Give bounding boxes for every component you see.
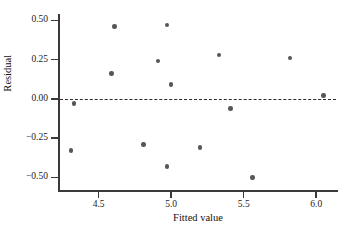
data-point [141, 142, 146, 147]
y-axis-tick-label: −0.25 [26, 133, 48, 143]
x-axis-tick [98, 192, 100, 198]
zero-reference-line [60, 99, 336, 100]
y-axis-tick [51, 177, 58, 179]
x-axis-tick-label: 6.0 [310, 200, 322, 210]
x-axis-line [58, 190, 338, 192]
x-axis-tick-label: 4.5 [93, 200, 105, 210]
x-axis-tick [315, 192, 317, 198]
x-axis-tick [170, 192, 172, 198]
data-point [288, 56, 293, 61]
data-point [156, 59, 161, 64]
data-point [109, 71, 114, 76]
x-axis-tick-label: 5.0 [165, 200, 177, 210]
data-point [250, 175, 255, 180]
data-point [72, 101, 77, 106]
y-axis-tick [51, 59, 58, 61]
y-axis-tick-label: 0.50 [31, 15, 48, 25]
data-point [228, 106, 233, 111]
x-axis-tick-label: 5.5 [238, 200, 250, 210]
x-axis-title: Fitted value [58, 213, 338, 224]
residual-vs-fitted-scatter-plot: 0.500.250.00−0.25−0.504.55.05.56.0 Resid… [0, 0, 346, 231]
data-point [112, 24, 117, 29]
data-point [198, 145, 203, 150]
y-axis-tick [51, 98, 58, 100]
y-axis-tick-label: −0.50 [26, 172, 48, 182]
y-axis-tick [51, 137, 58, 139]
data-point [165, 164, 170, 169]
x-axis-tick [243, 192, 245, 198]
y-axis-tick-label: 0.25 [31, 55, 48, 65]
data-point [165, 23, 170, 28]
data-point [321, 93, 326, 98]
data-point [69, 148, 74, 153]
data-point [169, 82, 174, 87]
y-axis-line [58, 14, 60, 192]
data-point [217, 53, 222, 58]
y-axis-tick [51, 20, 58, 22]
y-axis-tick-label: 0.00 [31, 94, 48, 104]
y-axis-title: Residual [3, 33, 14, 113]
